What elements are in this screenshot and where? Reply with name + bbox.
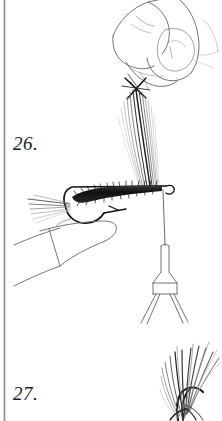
bobbin — [141, 245, 188, 325]
illustration-canvas — [0, 0, 222, 421]
step-number-27: 27. — [13, 384, 38, 403]
step-26-illustration — [14, 0, 218, 324]
feather-fibers — [160, 342, 221, 420]
vise-jaws — [14, 219, 117, 286]
hand-fingers — [113, 0, 218, 90]
thread — [163, 190, 165, 245]
fiber-bundle — [118, 90, 159, 188]
step-27-illustration — [160, 342, 221, 420]
dubbed-body — [72, 181, 162, 206]
figure-page: 26. 27. — [0, 0, 222, 421]
step-number-26: 26. — [13, 134, 38, 153]
